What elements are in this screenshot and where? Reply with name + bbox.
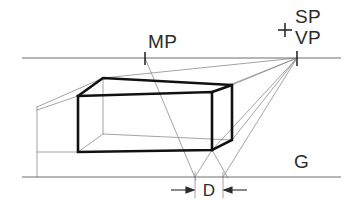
measuring-point-label: MP [148, 31, 177, 52]
perspective-construction-drawing: MP SP VP G D [0, 0, 358, 217]
vanishing-point-label: VP [295, 27, 321, 48]
station-point-label: SP [295, 6, 321, 27]
perspective-drawing-canvas: MP SP VP G D [0, 0, 358, 217]
ground-line-label: G [294, 151, 309, 172]
depth-dimension-label: D [203, 181, 216, 200]
